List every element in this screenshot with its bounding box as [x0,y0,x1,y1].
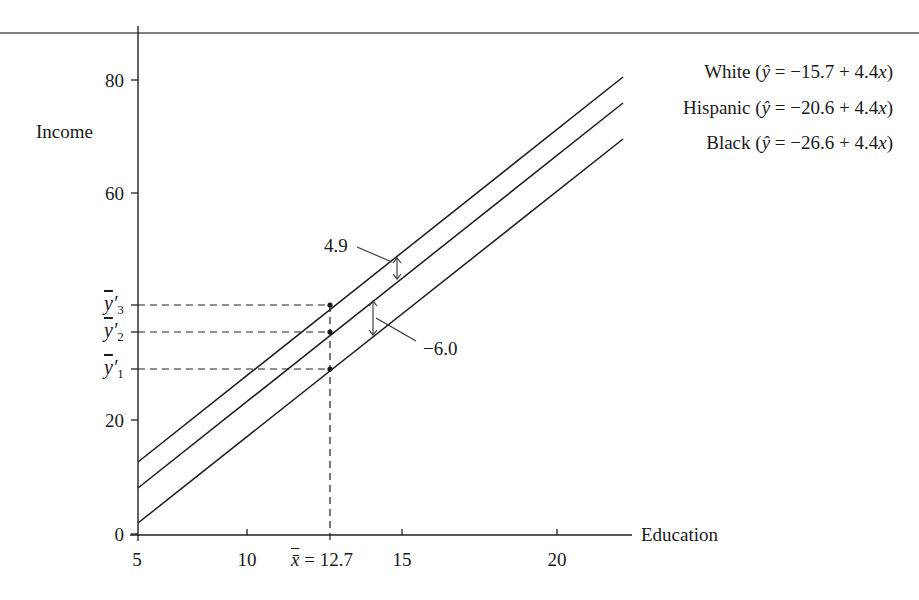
x-tick-20: 20 [527,550,587,569]
gap-arrow-upper [357,247,401,279]
legend-black-name: Black [706,132,750,153]
x-mean-value: = 12.7 [304,549,353,570]
y2-bar-label: y′2 [104,320,124,343]
white-mean-point [327,302,332,307]
x-mean-label: x̄ = 12.7 [291,550,353,569]
legend-black: Black (ŷ = −26.6 + 4.4x) [563,133,893,152]
legend-white-name: White [704,61,750,82]
hispanic-line [138,103,623,488]
y-tick-60: 60 [84,184,124,203]
legend-black-equation: −26.6 + 4.4 [790,132,878,153]
y3-bar-label: y′3 [104,293,124,316]
gap-label-lower: −6.0 [423,339,457,358]
regression-lines [138,77,623,523]
x-tick-5: 5 [107,550,167,569]
black-mean-point [327,366,332,371]
legend-white-equation: −15.7 + 4.4 [790,61,878,82]
x-tick-15: 15 [372,550,432,569]
y-tick-20: 20 [84,411,124,430]
legend-hispanic-equation: −20.6 + 4.4 [790,97,878,118]
y-ticks [131,80,138,534]
gap-label-upper: 4.9 [324,236,348,255]
legend-white: White (ŷ = −15.7 + 4.4x) [563,62,893,81]
chart-canvas [0,0,919,600]
reference-dashed-lines [138,305,330,540]
x-axis-label: Education [641,525,718,544]
legend-hispanic: Hispanic (ŷ = −20.6 + 4.4x) [563,98,893,117]
hispanic-mean-point [327,329,332,334]
x-bar-symbol: x̄ [291,549,299,570]
leader-line-upper [357,247,392,262]
black-line [138,139,623,523]
white-line [138,77,623,462]
x-tick-10: 10 [217,550,277,569]
y-tick-80: 80 [84,71,124,90]
y1-bar-label: y′1 [104,357,124,380]
legend-hispanic-name: Hispanic [683,97,751,118]
y-axis-label: Income [36,122,93,141]
y-tick-0: 0 [84,525,124,544]
